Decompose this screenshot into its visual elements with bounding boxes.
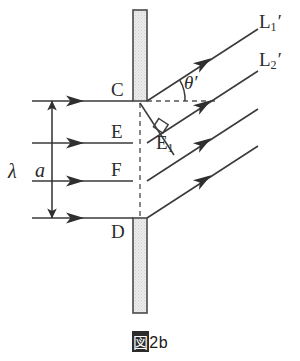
diffracted-rays-group (147, 29, 258, 218)
barrier-plate-lower (133, 218, 147, 313)
label-point-e: E (111, 122, 123, 141)
label-point-e1: E1 (156, 133, 174, 154)
label-point-e1-sub: 1 (168, 141, 174, 155)
diagram-canvas (0, 0, 300, 361)
label-point-d: D (111, 222, 125, 241)
diffraction-figure: C D E F E1 λ a θ′ L1′ L2′ 図2b (0, 0, 300, 361)
label-theta-main: θ (184, 72, 193, 93)
barrier-plate-upper (133, 10, 147, 101)
figure-caption: 図2b (0, 331, 300, 352)
label-wavelength: λ (8, 161, 17, 181)
label-ray-l1: L1′ (259, 12, 281, 33)
label-diffraction-angle: θ′ (184, 73, 198, 92)
label-ray-l2: L2′ (259, 50, 281, 71)
label-point-c: C (111, 80, 124, 99)
incident-ray-arrowheads (66, 95, 84, 223)
caption-kanji: 図 (132, 331, 150, 352)
label-ray-l1-prime: ′ (277, 11, 281, 32)
label-theta-prime: ′ (193, 72, 197, 93)
label-point-f: F (111, 160, 122, 179)
label-ray-l2-prime: ′ (277, 49, 281, 70)
caption-number: 2b (149, 334, 168, 351)
label-slit-width: a (35, 160, 45, 180)
label-ray-l1-main: L (259, 11, 271, 32)
label-ray-l2-main: L (259, 49, 271, 70)
label-point-e1-main: E (156, 132, 168, 153)
